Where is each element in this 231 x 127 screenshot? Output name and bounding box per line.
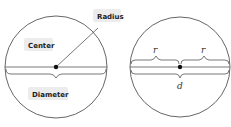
right-circle-diagram: r r d — [130, 17, 230, 117]
center-dot — [54, 65, 58, 69]
radius-line — [56, 28, 98, 67]
circle-diagrams: Radius Center Diameter r r d — [0, 0, 231, 127]
diameter-brace-right — [131, 70, 229, 78]
center-dot-right — [178, 65, 182, 69]
diameter-brace — [6, 69, 106, 78]
r-label-left: r — [153, 45, 158, 55]
diameter-label: Diameter — [32, 91, 69, 99]
left-circle-diagram: Radius Center Diameter — [5, 9, 124, 118]
right-radius-brace — [181, 56, 229, 64]
center-label: Center — [28, 42, 55, 50]
d-label: d — [177, 81, 183, 91]
left-radius-brace — [131, 56, 179, 64]
r-label-right: r — [201, 45, 206, 55]
radius-label: Radius — [97, 13, 124, 21]
